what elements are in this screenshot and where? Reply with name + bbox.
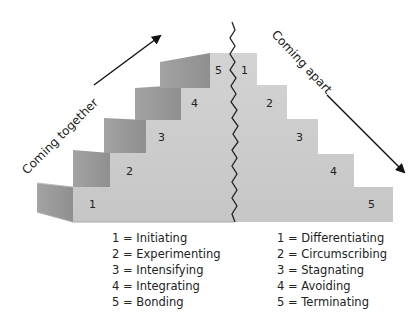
legend-item: 4 = Avoiding — [277, 278, 387, 294]
legend-item: 1 = Initiating — [112, 230, 221, 246]
right-step-3-label: 3 — [296, 131, 303, 144]
legend-item: 2 = Experimenting — [112, 246, 221, 262]
right-step-4-label: 4 — [330, 165, 337, 178]
left-step-5-label: 5 — [215, 64, 222, 77]
left-step-3-label: 3 — [158, 131, 165, 144]
coming-apart-legend: 1 = Differentiating 2 = Circumscribing 3… — [277, 230, 387, 310]
right-step-1-label: 1 — [241, 64, 248, 77]
legend-item: 5 = Bonding — [112, 294, 221, 310]
left-step-1-label: 1 — [89, 198, 96, 211]
coming-together-legend: 1 = Initiating 2 = Experimenting 3 = Int… — [112, 230, 221, 310]
right-step-2-label: 2 — [266, 97, 273, 110]
legend-item: 1 = Differentiating — [277, 230, 387, 246]
right-step-5-label: 5 — [368, 198, 375, 211]
legend-item: 3 = Intensifying — [112, 262, 221, 278]
coming-together-arrow — [94, 36, 160, 85]
legend-item: 2 = Circumscribing — [277, 246, 387, 262]
step-3-side — [104, 118, 146, 153]
step-2-side — [73, 150, 110, 187]
left-step-2-label: 2 — [126, 165, 133, 178]
step-4-side — [135, 85, 181, 120]
step-5-side — [160, 53, 210, 88]
legend-item: 3 = Stagnating — [277, 262, 387, 278]
legend-item: 4 = Integrating — [112, 278, 221, 294]
step-1-side — [37, 183, 73, 222]
legend-item: 5 = Terminating — [277, 294, 387, 310]
left-step-4-label: 4 — [191, 97, 198, 110]
